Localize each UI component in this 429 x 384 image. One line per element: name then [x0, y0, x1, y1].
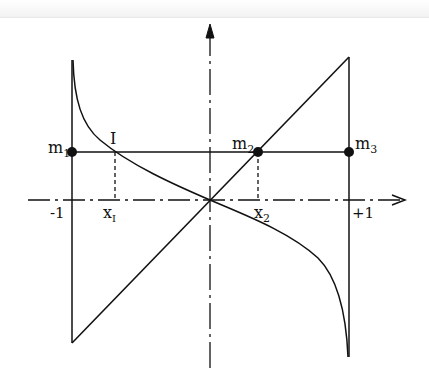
- point-m2: [253, 147, 263, 157]
- point-m3: [344, 147, 354, 157]
- tick-label-minus-one: -1: [50, 204, 65, 222]
- y-axis-arrow-icon: [206, 24, 214, 38]
- label-x2: x2: [254, 203, 270, 225]
- label-I: I: [110, 129, 116, 148]
- diagram-canvas: m1 I m2 m3 -1 +1 xI x2: [0, 0, 429, 384]
- label-m1: m1: [48, 138, 70, 160]
- label-m3: m3: [355, 134, 377, 156]
- tick-label-plus-one: +1: [352, 204, 374, 222]
- label-m2: m2: [232, 134, 254, 156]
- label-xI: xI: [103, 203, 116, 224]
